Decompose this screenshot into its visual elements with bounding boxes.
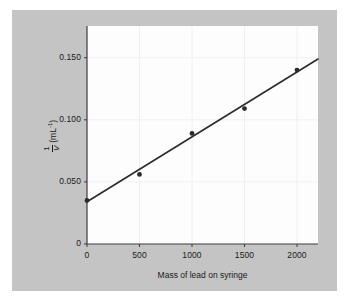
y-axis-unit-close: ) xyxy=(47,120,57,123)
y-axis-title: 1 V (mL-1) xyxy=(43,120,61,152)
y-tick-label: 0.050 xyxy=(37,176,81,186)
y-axis-fraction: 1 V xyxy=(43,145,61,152)
y-tick-label: 0 xyxy=(37,238,81,248)
y-axis-denominator: V xyxy=(53,145,61,152)
y-axis-title-wrapper: 1 V (mL-1) xyxy=(24,108,80,164)
y-tick-label: 0.150 xyxy=(37,52,81,62)
trendline xyxy=(87,59,318,202)
y-axis-unit-open: (mL xyxy=(47,128,57,143)
y-axis-unit-exponent: -1 xyxy=(47,123,53,128)
x-tick-label: 2000 xyxy=(277,250,317,260)
gridlines xyxy=(87,26,318,244)
y-axis-numerator: 1 xyxy=(43,145,51,151)
figure: 00.0500.1000.150 0500100015002000 Mass o… xyxy=(0,0,349,301)
x-tick-label: 1000 xyxy=(172,250,212,260)
y-axis-unit: (mL-1) xyxy=(47,120,58,143)
x-tick-label: 1500 xyxy=(225,250,265,260)
x-tick-label: 500 xyxy=(120,250,160,260)
x-tick-label: 0 xyxy=(67,250,107,260)
axis-lines xyxy=(87,26,318,244)
tick-marks xyxy=(84,58,297,247)
x-axis-title: Mass of lead on syringe xyxy=(87,270,318,280)
